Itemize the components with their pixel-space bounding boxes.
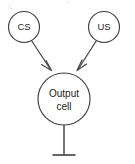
node-us[interactable]: US (89, 12, 120, 43)
cs-output-arrowhead-icon (42, 61, 52, 71)
output-cell-label-line-2: cell (56, 101, 71, 112)
scan-speck (9, 6, 10, 7)
output-cell-node-circle[interactable] (38, 73, 90, 125)
us-output-arrowhead-icon (77, 60, 87, 71)
scan-speck (67, 2, 68, 3)
cs-node-label: CS (17, 21, 30, 32)
output-cell-label-line-1: Output (49, 88, 79, 99)
diagram-canvas: CS US Output cell (0, 0, 135, 164)
connection-output-cell-axon (53, 125, 76, 156)
us-output-connector-line (78, 41, 97, 70)
us-node-label: US (97, 21, 110, 32)
node-cs[interactable]: CS (9, 12, 40, 43)
connection-us-to-output-cell (77, 41, 97, 71)
scan-speck (11, 8, 12, 9)
connection-cs-to-output-cell (32, 41, 52, 71)
cs-output-connector-line (32, 41, 51, 70)
node-output-cell[interactable]: Output cell (38, 73, 90, 125)
circuit-diagram-svg: CS US Output cell (0, 0, 135, 164)
